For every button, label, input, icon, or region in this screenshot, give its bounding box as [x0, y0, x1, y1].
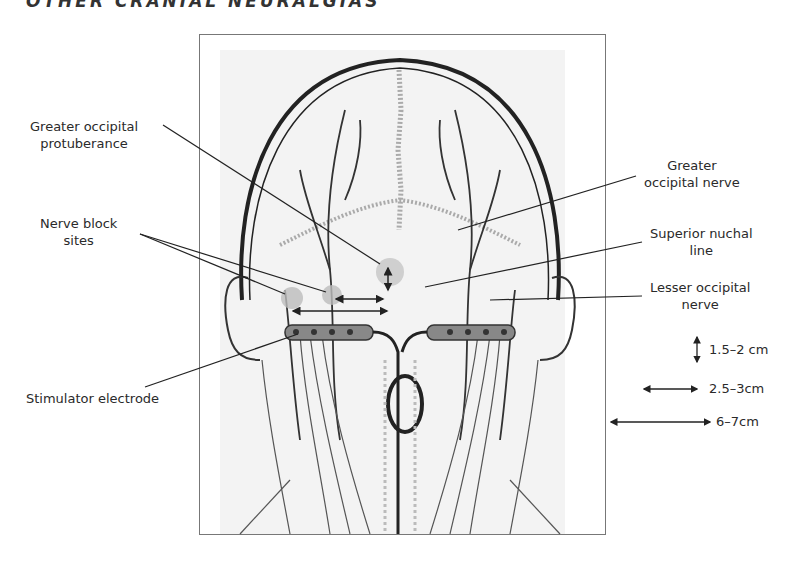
- scale-text-short: 2.5–3cm: [709, 381, 764, 396]
- occipital-protuberance-icon: [376, 258, 404, 286]
- label-lesser-occipital-nerve: Lesser occipital nerve: [650, 279, 750, 313]
- nerve-block-site-icon: [322, 285, 342, 305]
- scale-text-long: 6–7cm: [716, 414, 759, 429]
- label-greater-occipital-nerve: Greater occipital nerve: [644, 157, 740, 191]
- label-nerve-block-sites: Nerve block sites: [40, 215, 117, 249]
- label-superior-nuchal-line: Superior nuchal line: [650, 225, 753, 259]
- label-greater-occipital-protuberance: Greater occipital protuberance: [30, 118, 138, 152]
- nerve-block-site-icon: [281, 287, 303, 309]
- illustration-background: [220, 50, 565, 534]
- scale-text-vertical: 1.5–2 cm: [709, 342, 768, 357]
- label-stimulator-electrode: Stimulator electrode: [26, 390, 159, 407]
